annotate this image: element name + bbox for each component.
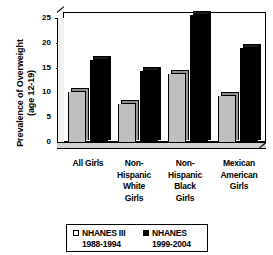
x-label-line: Girls (108, 193, 160, 205)
x-label-line: Girls (159, 193, 211, 205)
light-square-icon (73, 230, 79, 236)
y-axis: 25 20 15 10 5 0 (40, 12, 54, 154)
bar-nhanes3-non-hispanic-white-girls (118, 104, 136, 143)
x-label-line: Girls (210, 181, 268, 193)
legend-label-line-2: 1988-1994 (82, 239, 125, 250)
y-axis-title: Prevalence of Overweight (age 12-19) (15, 23, 37, 163)
legend-label-line-1: NHANES III (82, 228, 125, 238)
x-label-line: White (108, 181, 160, 193)
bar-series-container (64, 12, 266, 143)
bar-nhanes3-mexican-american-girls (218, 96, 236, 143)
x-label-line: Hispanic (159, 170, 211, 182)
plot-left-panel (57, 18, 64, 148)
bar-side-face (258, 45, 261, 140)
y-tick-label-20: 20 (42, 39, 51, 47)
plot-area: 25 20 15 10 5 0 (40, 12, 268, 154)
x-label-line: Non- (108, 158, 160, 170)
x-label-line: Non- (159, 158, 211, 170)
bar-front-face (118, 104, 136, 143)
bar-side-face (108, 57, 111, 140)
y-tick-label-15: 15 (42, 64, 51, 72)
bar-group-mexican-american-girls (218, 12, 266, 143)
y-tick-label-0: 0 (47, 138, 51, 146)
bar-front-face (68, 92, 86, 143)
bar-chart: Prevalence of Overweight (age 12-19) 25 … (0, 0, 273, 255)
bar-nhanes-1999-non-hispanic-black-girls (190, 15, 208, 143)
y-tick-label-10: 10 (42, 88, 51, 96)
bar-front-face (218, 96, 236, 143)
bar-nhanes-1999-all-girls (90, 60, 108, 143)
bar-group-non-hispanic-black-girls (168, 12, 216, 143)
bar-front-face (140, 71, 158, 143)
x-label-line: American (210, 170, 268, 182)
bar-nhanes-1999-mexican-american-girls (240, 48, 258, 143)
legend-item-nhanes-1999-2004: NHANES 1999-2004 (143, 228, 191, 250)
bar-nhanes-1999-non-hispanic-white-girls (140, 71, 158, 143)
y-tick-label-25: 25 (42, 14, 51, 22)
x-axis-labels: All Girls Non- Hispanic White Girls Non-… (62, 158, 268, 216)
bar-side-face (236, 93, 239, 140)
bar-front-face (90, 60, 108, 143)
x-label-line: Hispanic (108, 170, 160, 182)
bar-side-face (186, 71, 189, 140)
bar-front-face (240, 48, 258, 143)
legend-item-nhanes-iii: NHANES III 1988-1994 (73, 228, 125, 250)
x-label-non-hispanic-black-girls: Non- Hispanic Black Girls (159, 158, 211, 204)
legend-label-line-2: 1999-2004 (152, 239, 191, 250)
x-label-mexican-american-girls: Mexican American Girls (210, 158, 268, 193)
x-label-non-hispanic-white-girls: Non- Hispanic White Girls (108, 158, 160, 204)
bar-group-non-hispanic-white-girls (118, 12, 166, 143)
chart-legend: NHANES III 1988-1994 NHANES 1999-2004 (66, 224, 208, 252)
bar-front-face (190, 15, 208, 143)
legend-label-line-1: NHANES (152, 228, 187, 238)
bar-group-all-girls (68, 12, 116, 143)
bar-side-face (86, 89, 89, 140)
plot-floor (57, 142, 266, 149)
bar-side-face (136, 101, 139, 140)
bar-nhanes3-all-girls (68, 92, 86, 143)
bar-side-face (208, 12, 211, 140)
x-label-line: Mexican (210, 158, 268, 170)
bar-front-face (168, 74, 186, 143)
dark-square-icon (143, 230, 149, 236)
x-label-line: Black (159, 181, 211, 193)
y-tick-label-5: 5 (47, 113, 51, 121)
bar-side-face (158, 68, 161, 140)
y-axis-title-line-2: (age 12-19) (26, 23, 37, 163)
y-axis-title-line-1: Prevalence of Overweight (15, 23, 26, 163)
bar-nhanes3-non-hispanic-black-girls (168, 74, 186, 143)
